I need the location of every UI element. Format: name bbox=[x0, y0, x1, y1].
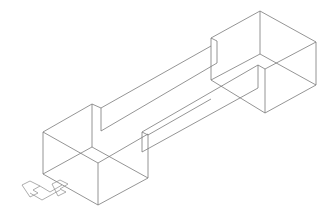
cad-viewport[interactable] bbox=[0, 0, 332, 217]
ucs-icon bbox=[22, 180, 68, 200]
wireframe-drawing bbox=[0, 0, 332, 217]
right-box bbox=[211, 11, 316, 113]
left-box bbox=[43, 104, 148, 205]
connecting-beam bbox=[101, 46, 258, 152]
